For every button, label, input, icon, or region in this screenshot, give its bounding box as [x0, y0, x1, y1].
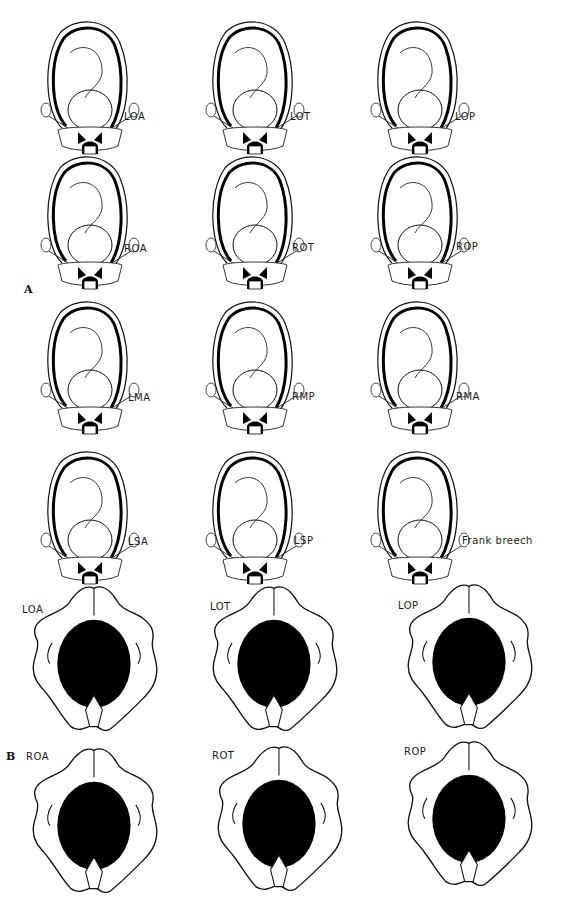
pelvic-view-rot — [200, 740, 360, 895]
fetal-position-lsa — [40, 448, 140, 588]
position-label: LOP — [398, 600, 419, 611]
position-label: ROA — [124, 243, 147, 254]
position-label: RMA — [456, 391, 480, 402]
fetal-position-lsp — [205, 448, 305, 588]
position-label: LOT — [210, 601, 231, 612]
fetal-position-roa — [40, 153, 140, 293]
position-label: ROA — [26, 751, 49, 762]
position-label: LSP — [294, 535, 313, 546]
position-label: LMA — [128, 392, 151, 403]
fetal-position-lma — [40, 298, 140, 438]
position-label: LOA — [22, 604, 43, 615]
fetal-position-frank-breech — [370, 448, 470, 588]
fetal-position-rot — [205, 153, 305, 293]
position-label: ROP — [456, 241, 478, 252]
position-label: LOA — [124, 111, 145, 122]
fetal-position-rma — [370, 298, 470, 438]
position-label: ROT — [212, 750, 234, 761]
fetal-position-rmp — [205, 298, 305, 438]
fetal-position-lop — [370, 18, 470, 158]
pelvic-view-roa — [15, 742, 175, 897]
section-a-label: A — [24, 283, 33, 296]
section-b-label: B — [6, 750, 15, 763]
fetal-position-rop — [370, 153, 470, 293]
pelvic-view-rop — [390, 735, 550, 890]
position-label: Frank breech — [462, 535, 533, 546]
position-label: LSA — [128, 536, 148, 547]
fetal-position-lot — [205, 18, 305, 158]
fetal-position-loa — [40, 18, 140, 158]
position-label: RMP — [292, 391, 315, 402]
position-label: LOP — [455, 111, 476, 122]
position-label: LOT — [290, 111, 311, 122]
position-label: ROP — [404, 746, 426, 757]
position-label: ROT — [292, 242, 314, 253]
